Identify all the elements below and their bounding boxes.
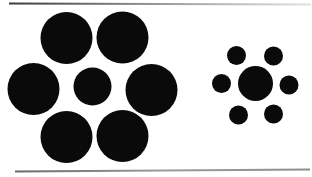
right-inducer-circle xyxy=(264,105,283,124)
bottom-horizontal-line xyxy=(15,170,310,172)
right-inducer-circle xyxy=(280,76,299,95)
right-circle-group-small-inducers xyxy=(212,46,299,125)
right-inducer-circle xyxy=(229,106,248,125)
top-horizontal-line xyxy=(9,4,311,5)
right-inducer-circle xyxy=(264,47,283,66)
left-inducer-circle xyxy=(97,110,149,162)
illusion-figure xyxy=(0,0,312,177)
left-center-circle xyxy=(74,68,112,106)
left-circle-group-large-inducers xyxy=(8,12,178,164)
left-inducer-circle xyxy=(41,12,93,64)
left-inducer-circle xyxy=(8,63,60,115)
right-center-circle xyxy=(238,66,273,101)
left-inducer-circle xyxy=(41,111,93,163)
right-inducer-circle xyxy=(212,74,231,93)
ebbinghaus-illusion-canvas xyxy=(0,0,312,177)
left-inducer-circle xyxy=(97,12,149,64)
right-inducer-circle xyxy=(227,46,246,65)
left-inducer-circle xyxy=(126,64,178,116)
